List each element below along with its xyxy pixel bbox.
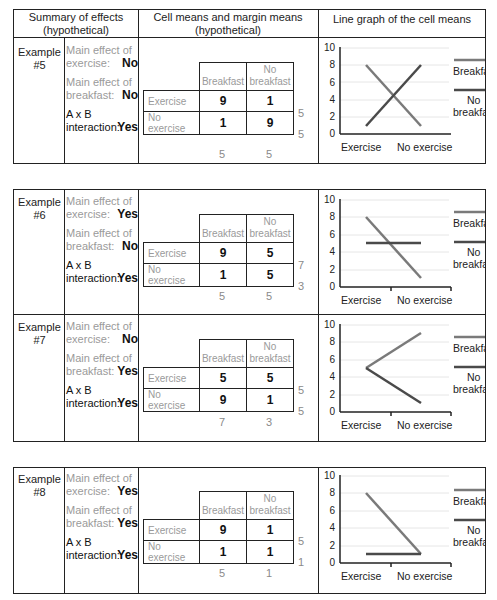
legend-label-no-breakfast: No (467, 371, 481, 383)
row-header-exercise: Exercise (144, 243, 200, 264)
svg-text:4: 4 (329, 246, 335, 257)
cell-no-exercise-no-breakfast: 5 (247, 264, 294, 287)
interaction-effect: A x B interaction: Yes (66, 536, 138, 562)
col-header-breakfast: Breakfast (200, 63, 247, 91)
axes (340, 199, 451, 291)
cell-no-exercise-breakfast: 1 (200, 264, 247, 287)
main-effect-exercise: Main effect of exercise: No (66, 320, 138, 346)
col-margin: 5 (219, 567, 225, 579)
line-no-breakfast (366, 368, 421, 403)
main-effect-breakfast: Main effect of breakfast: Yes (66, 352, 138, 378)
main-effect-breakfast: Main effect of breakfast: No (66, 227, 138, 253)
effect-value: No (122, 89, 138, 102)
col-header-breakfast: Breakfast (200, 215, 247, 243)
svg-text:4: 4 (329, 94, 335, 105)
col-margin: 7 (219, 416, 225, 428)
y-tick-labels: 1086 420 (324, 470, 336, 568)
svg-text:2: 2 (329, 389, 335, 400)
axes (340, 324, 451, 416)
x-label-no-exercise: No exercise (397, 294, 453, 306)
effect-value: No (122, 333, 138, 346)
example-number: #8 (14, 486, 65, 499)
line-breakfast (366, 217, 421, 278)
effect-value: Yes (117, 208, 138, 221)
row-header-no-exercise: No exercise (144, 389, 200, 412)
effect-value: Yes (117, 121, 138, 134)
effect-value: Yes (117, 272, 138, 285)
row-header-no-exercise: No exercise (144, 541, 200, 564)
legend-label-no-breakfast: No (467, 246, 481, 258)
svg-text:8: 8 (329, 487, 335, 498)
col-divider (64, 190, 65, 441)
svg-text:6: 6 (329, 229, 335, 240)
legend-label-breakfast: Breakfast (453, 65, 485, 77)
x-label-exercise: Exercise (341, 294, 381, 306)
svg-text:10: 10 (324, 42, 336, 53)
row-margin: 7 (298, 259, 304, 271)
col-header-no-breakfast: Nobreakfast (247, 215, 294, 243)
effects-summary: Main effect of exercise: Yes Main effect… (66, 472, 138, 568)
cell-exercise-breakfast: 9 (200, 520, 247, 541)
effect-value: Yes (117, 549, 138, 562)
header-summary: Summary of effects (hypothetical) (14, 11, 138, 37)
line-chart: 1086 420 Exercise No exercise Breakfast … (319, 190, 485, 314)
example-word: Example (14, 46, 65, 59)
svg-text:8: 8 (329, 211, 335, 222)
cell-means-table: Breakfast Nobreakfast Exercise 5 5 No ex… (143, 339, 294, 412)
main-effect-exercise: Main effect of exercise: No (66, 44, 138, 70)
example-number: #7 (14, 334, 65, 347)
col-divider (138, 468, 139, 593)
row-margin: 5 (298, 128, 304, 140)
row-margin: 1 (298, 556, 304, 568)
col-margin: 5 (266, 148, 272, 160)
svg-text:10: 10 (324, 470, 336, 481)
main-effect-exercise: Main effect of exercise: Yes (66, 472, 138, 498)
legend-label-breakfast: Breakfast (453, 342, 485, 354)
x-label-exercise: Exercise (341, 570, 381, 582)
cell-exercise-breakfast: 5 (200, 368, 247, 389)
svg-text:0: 0 (329, 406, 335, 417)
svg-text:2: 2 (329, 111, 335, 122)
svg-text:0: 0 (329, 557, 335, 568)
example-label: Example #8 (14, 473, 65, 499)
effects-summary: Main effect of exercise: No Main effect … (66, 320, 138, 416)
interaction-effect: A x B interaction: Yes (66, 259, 138, 285)
cell-no-exercise-breakfast: 9 (200, 389, 247, 412)
effect-value: No (122, 240, 138, 253)
svg-text:10: 10 (324, 319, 336, 330)
svg-text:8: 8 (329, 336, 335, 347)
col-margin: 3 (266, 416, 272, 428)
header-means-line1: Cell means and margin means (138, 11, 318, 24)
svg-text:10: 10 (324, 194, 336, 205)
effects-summary: Main effect of exercise: No Main effect … (66, 44, 138, 140)
gridlines (340, 48, 449, 117)
example-number: #5 (14, 59, 65, 72)
col-margin: 5 (219, 290, 225, 302)
legend-label-no-breakfast: breakfast (453, 536, 485, 548)
line-chart: 1086 420 Exercise No exercise Breakfast … (319, 468, 485, 593)
row-header-exercise: Exercise (144, 368, 200, 389)
panel-examples-6-7: Example #6 Main effect of exercise: Yes … (13, 189, 486, 442)
row-margin: 5 (298, 405, 304, 417)
cell-means-table: Breakfast Nobreakfast Exercise 9 1 No ex… (143, 491, 294, 564)
row-header-no-exercise: No exercise (144, 264, 200, 287)
header-means-line2: (hypothetical) (138, 24, 318, 37)
example-word: Example (14, 321, 65, 334)
col-margin: 1 (266, 567, 272, 579)
x-label-no-exercise: No exercise (397, 570, 453, 582)
example-label: Example #5 (14, 46, 65, 72)
cell-no-exercise-no-breakfast: 1 (247, 389, 294, 412)
legend-label-no-breakfast: breakfast (453, 258, 485, 270)
col-header-no-breakfast: Nobreakfast (247, 63, 294, 91)
cell-means-table: Breakfast Nobreakfast Exercise 9 1 No ex… (143, 62, 294, 135)
legend-label-breakfast: Breakfast (453, 495, 485, 507)
cell-exercise-breakfast: 9 (200, 243, 247, 264)
gridlines (340, 476, 449, 546)
effect-value: No (122, 57, 138, 70)
panel-example-5: Summary of effects (hypothetical) Cell m… (13, 9, 486, 164)
line-breakfast (366, 333, 421, 368)
header-line-graph: Line graph of the cell means (318, 13, 486, 26)
svg-text:4: 4 (329, 522, 335, 533)
svg-text:4: 4 (329, 371, 335, 382)
svg-text:6: 6 (329, 354, 335, 365)
